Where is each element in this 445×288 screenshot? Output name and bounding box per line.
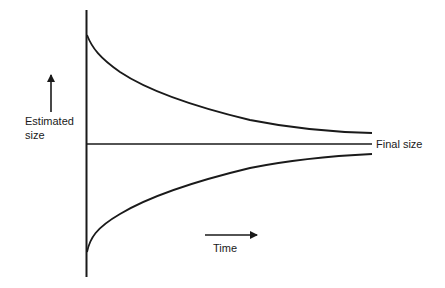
x-axis-label: Time: [213, 241, 237, 255]
final-size-label: Final size: [376, 137, 422, 151]
y-axis-label-line2: size: [25, 128, 74, 142]
underestimate-curve: [87, 154, 372, 252]
y-axis-label: Estimated size: [25, 114, 74, 142]
y-axis-label-line1: Estimated: [25, 114, 74, 128]
overestimate-curve: [87, 35, 372, 133]
